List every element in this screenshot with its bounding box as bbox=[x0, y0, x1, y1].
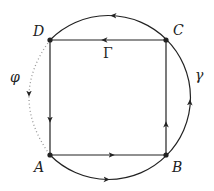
vertex-A bbox=[47, 152, 52, 157]
label-C: C bbox=[173, 22, 184, 38]
label-A: A bbox=[32, 159, 44, 175]
contour-diagram: D C A B Γ γ φ bbox=[0, 0, 214, 191]
label-Gamma: Γ bbox=[103, 45, 113, 61]
label-B: B bbox=[171, 159, 182, 175]
label-gamma: γ bbox=[195, 67, 204, 83]
label-phi: φ bbox=[10, 69, 20, 85]
vertex-D bbox=[47, 37, 52, 42]
vertex-C bbox=[163, 37, 168, 42]
vertex-B bbox=[163, 152, 168, 157]
label-D: D bbox=[32, 23, 44, 39]
phi-arc bbox=[29, 40, 50, 155]
